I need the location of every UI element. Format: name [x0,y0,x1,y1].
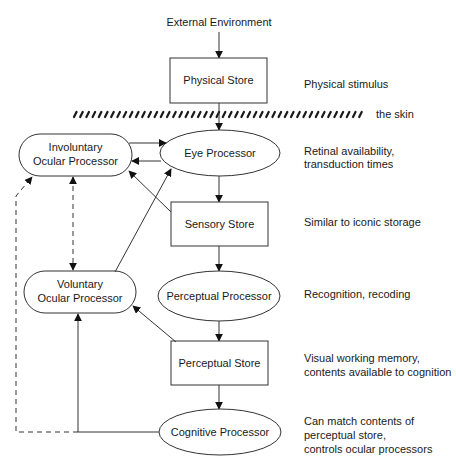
annotation-eye-line1: Retinal availability, [304,145,394,157]
involuntary-ocular-processor-node: Involuntary Ocular Processor [19,134,132,176]
involuntary-ocular-label-line1: Involuntary [49,141,103,153]
annotation-perceptual-store-line1: Visual working memory, [304,352,420,364]
voluntary-ocular-processor-node: Voluntary Ocular Processor [24,271,136,313]
sensory-store-node: Sensory Store [171,202,268,246]
arrow-cognitive-to-voluntary [78,314,159,432]
processor-diagram: External Environment Physical Store the … [0,0,456,470]
cognitive-processor-label: Cognitive Processor [171,426,270,438]
involuntary-ocular-label-line2: Ocular Processor [33,155,118,167]
annotation-cognitive-line1: Can match contents of [304,415,415,427]
annotation-perceptual-processor: Recognition, recoding [304,288,410,300]
physical-store-label: Physical Store [183,74,253,86]
perceptual-store-node: Perceptual Store [171,341,268,385]
annotations: Physical stimulus Retinal availability, … [304,78,451,455]
physical-store-node: Physical Store [170,58,267,103]
arrow-perceptual-store-to-voluntary [133,306,176,342]
skin-boundary [74,112,362,117]
annotation-cognitive-line3: controls ocular processors [304,443,433,455]
cognitive-processor-node: Cognitive Processor [159,409,281,455]
external-environment-label: External Environment [166,16,271,28]
perceptual-processor-label: Perceptual Processor [166,290,271,302]
annotation-perceptual-store-line2: contents available to cognition [304,366,451,378]
skin-label: the skin [376,108,414,120]
perceptual-processor-node: Perceptual Processor [158,271,280,321]
annotation-sensory-store: Similar to iconic storage [304,216,421,228]
voluntary-ocular-label-line2: Ocular Processor [38,292,123,304]
voluntary-ocular-label-line1: Voluntary [57,278,103,290]
annotation-physical-store: Physical stimulus [304,78,389,90]
perceptual-store-label: Perceptual Store [179,357,261,369]
sensory-store-label: Sensory Store [185,218,255,230]
annotation-cognitive-line2: perceptual store, [304,429,386,441]
annotation-eye-line2: transduction times [304,158,394,170]
eye-processor-node: Eye Processor [160,130,280,176]
arrow-sensory-to-involuntary [129,171,171,212]
eye-processor-label: Eye Processor [184,147,256,159]
